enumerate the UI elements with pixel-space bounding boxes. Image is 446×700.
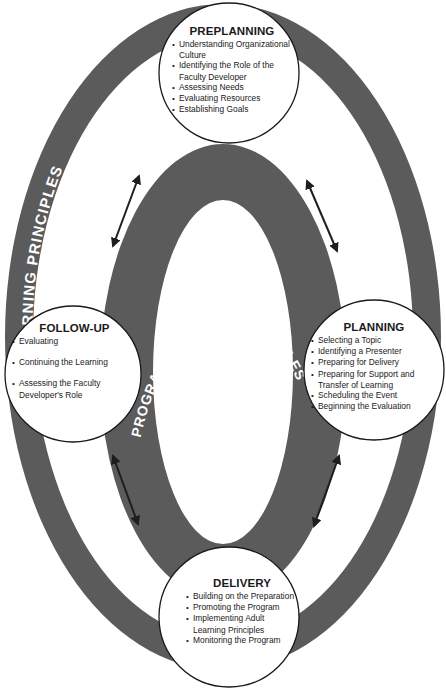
- list-item: Preparing for Delivery: [311, 357, 437, 368]
- preplanning-list: Understanding Organizational Culture Ide…: [172, 39, 292, 115]
- list-item: Continuing the Learning: [12, 357, 137, 368]
- list-item: Scheduling the Event: [311, 390, 437, 401]
- planning-node: PLANNING Selecting a Topic Identifying a…: [311, 321, 437, 412]
- preplanning-title: PREPLANNING: [172, 25, 292, 37]
- follow-up-list: Evaluating Continuing the Learning Asses…: [12, 336, 137, 400]
- list-item: Promoting the Program: [186, 602, 298, 613]
- delivery-title: DELIVERY: [186, 577, 298, 589]
- list-item: Monitoring the Program: [186, 635, 298, 646]
- follow-up-title: FOLLOW-UP: [12, 322, 137, 334]
- list-item: Building on the Preparation: [186, 591, 298, 602]
- list-item: Understanding Organizational Culture: [172, 39, 292, 60]
- list-item: Assessing the Faculty Developer's Role: [12, 378, 137, 399]
- list-item: Establishing Goals: [172, 104, 292, 115]
- list-item: Assessing Needs: [172, 82, 292, 93]
- preplanning-node: PREPLANNING Understanding Organizational…: [172, 25, 292, 115]
- list-item: Implementing Adult Learning Principles: [186, 613, 298, 634]
- list-item: Selecting a Topic: [311, 335, 437, 346]
- list-item: Preparing for Support and Transfer of Le…: [311, 369, 437, 390]
- list-item: Beginning the Evaluation: [311, 401, 437, 412]
- planning-list: Selecting a Topic Identifying a Presente…: [311, 335, 437, 412]
- planning-title: PLANNING: [311, 321, 437, 333]
- list-item: Identifying the Role of the Faculty Deve…: [172, 60, 292, 81]
- delivery-node: DELIVERY Building on the Preparation Pro…: [186, 577, 298, 646]
- delivery-list: Building on the Preparation Promoting th…: [186, 591, 298, 646]
- list-item: Evaluating: [12, 336, 137, 347]
- list-item: Evaluating Resources: [172, 93, 292, 104]
- list-item: Identifying a Presenter: [311, 346, 437, 357]
- follow-up-node: FOLLOW-UP Evaluating Continuing the Lear…: [12, 322, 137, 410]
